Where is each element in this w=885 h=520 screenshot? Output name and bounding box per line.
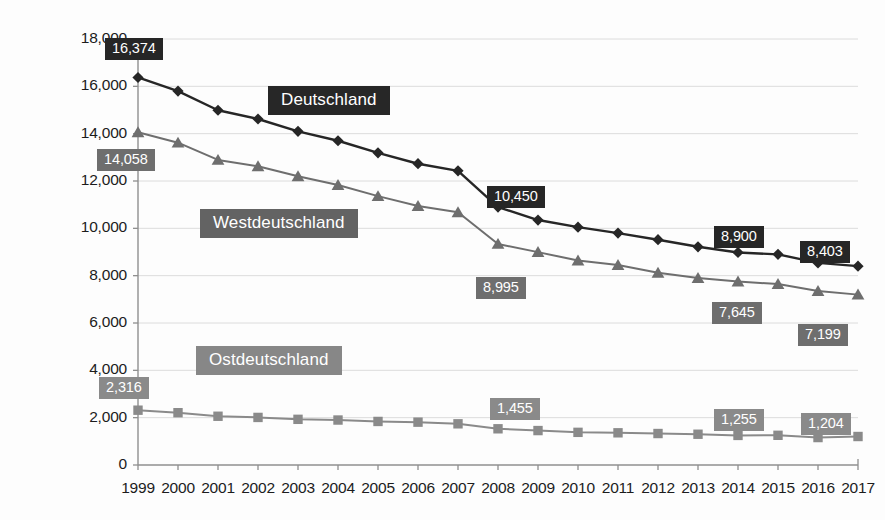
series-annotation-deutschland: Deutschland [268,86,390,115]
data-point-marker-diamond [252,113,263,124]
data-point-marker-square [693,430,702,439]
data-point-marker-square [613,428,622,437]
data-point-label: 7,645 [712,302,762,324]
data-point-marker-square [333,415,342,424]
data-point-marker-square [253,413,262,422]
y-axis-tick-label: 0 [119,455,127,473]
data-point-label: 8,900 [714,226,764,248]
data-point-marker-diamond [532,214,543,225]
data-point-label: 16,374 [105,38,163,60]
data-point-marker-diamond [172,85,183,96]
data-point-label: 8,995 [476,277,526,299]
data-point-marker-square [373,417,382,426]
data-point-marker-diamond [212,105,223,116]
data-point-marker-diamond [132,72,143,83]
y-axis-tick-label: 6,000 [89,313,127,331]
data-point-label: 10,450 [487,186,545,208]
y-axis-tick-label: 2,000 [89,408,127,426]
data-point-marker-square [453,419,462,428]
chart-plot-area [0,0,885,520]
data-point-marker-square [293,415,302,424]
data-point-marker-diamond [372,147,383,158]
data-point-marker-square [213,412,222,421]
data-point-marker-square [133,405,142,414]
y-axis-tick-label: 16,000 [81,76,127,94]
data-point-marker-square [733,431,742,440]
data-point-marker-diamond [612,227,623,238]
data-point-marker-diamond [412,158,423,169]
data-point-marker-diamond [852,261,863,272]
y-axis-tick-label: 8,000 [89,266,127,284]
line-chart: 02,0004,0006,0008,00010,00012,00014,0001… [0,0,885,520]
data-point-marker-square [533,426,542,435]
data-point-marker-square [773,431,782,440]
data-point-marker-triangle [132,126,145,137]
data-point-label: 7,199 [798,324,848,346]
data-point-label: 1,455 [490,398,540,420]
y-axis-tick-label: 12,000 [81,171,127,189]
data-point-marker-square [653,429,662,438]
series-annotation-ostdeutschland: Ostdeutschland [196,346,342,375]
data-point-marker-diamond [292,126,303,137]
data-point-marker-diamond [332,135,343,146]
data-point-marker-square [493,424,502,433]
data-point-label: 2,316 [99,377,149,399]
data-point-marker-triangle [212,154,225,165]
data-point-marker-square [413,417,422,426]
y-axis-tick-label: 14,000 [81,124,127,142]
data-point-label: 1,255 [714,409,764,431]
data-point-marker-square [853,432,862,441]
data-point-label: 8,403 [800,241,850,263]
data-point-marker-square [173,408,182,417]
data-point-marker-diamond [772,249,783,260]
data-point-label: 1,204 [801,413,851,435]
data-point-label: 14,058 [97,149,155,171]
y-axis-tick-label: 4,000 [89,360,127,378]
y-axis-tick-label: 10,000 [81,218,127,236]
data-point-marker-diamond [652,234,663,245]
data-point-marker-square [573,428,582,437]
data-point-marker-diamond [732,247,743,258]
series-annotation-westdeutschland: Westdeutschland [200,209,358,238]
data-point-marker-diamond [572,222,583,233]
data-point-marker-diamond [692,241,703,252]
x-axis-tick-label: 2017 [834,479,882,497]
